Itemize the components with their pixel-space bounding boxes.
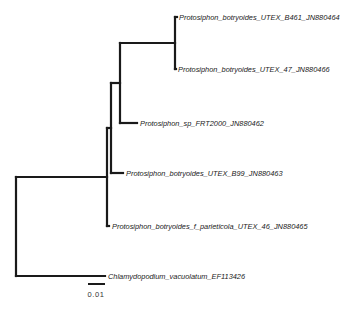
tip-labels: Protosiphon_botryoides_UTEX_B461_JN88046…	[108, 13, 340, 281]
tip-label-t2: Protosiphon_botryoides_UTEX_47_JN880466	[178, 65, 330, 74]
tip-label-t5: Protosiphon_botryoides_f_parieticola_UTE…	[112, 222, 308, 231]
phylogenetic-tree: Protosiphon_botryoides_UTEX_B461_JN88046…	[0, 0, 357, 311]
scale-bar-label: 0.01	[88, 290, 105, 299]
tip-label-t6: Chlamydopodium_vacuolatum_EF113426	[108, 272, 246, 281]
tip-label-t4: Protosiphon_botryoides_UTEX_B99_JN880463	[126, 169, 283, 178]
tree-branches	[16, 17, 177, 276]
tip-label-t1: Protosiphon_botryoides_UTEX_B461_JN88046…	[179, 13, 340, 22]
tip-label-t3: Protosiphon_sp_FRT2000_JN880462	[140, 119, 264, 128]
scale-bar-group: 0.01	[88, 284, 106, 299]
